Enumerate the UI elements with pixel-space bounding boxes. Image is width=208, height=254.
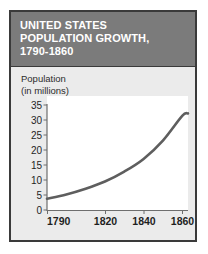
x-axis-ticks: 1790 1820 1840 1860 xyxy=(47,211,194,228)
x-tick-label: 1840 xyxy=(132,215,156,227)
y-tick-label: 10 xyxy=(31,175,43,186)
x-tick-label: 1860 xyxy=(171,215,195,227)
y-tick-label: 30 xyxy=(31,115,43,126)
x-tick-label: 1820 xyxy=(94,215,118,227)
y-tick-label: 35 xyxy=(31,100,43,111)
y-tick-label: 5 xyxy=(36,190,42,201)
y-tick-label: 0 xyxy=(36,205,42,216)
y-tick-label: 20 xyxy=(31,145,43,156)
y-axis-ticks: 35 30 25 20 15 10 5 0 xyxy=(31,100,47,216)
chart-figure: UNITED STATES POPULATION GROWTH, 1790-18… xyxy=(9,10,197,242)
y-tick-label: 25 xyxy=(31,130,43,141)
plot-area: 35 30 25 20 15 10 5 0 xyxy=(11,12,195,240)
x-tick-label: 1790 xyxy=(47,215,71,227)
y-tick-label: 15 xyxy=(31,160,43,171)
chart-svg: 35 30 25 20 15 10 5 0 xyxy=(11,12,195,240)
